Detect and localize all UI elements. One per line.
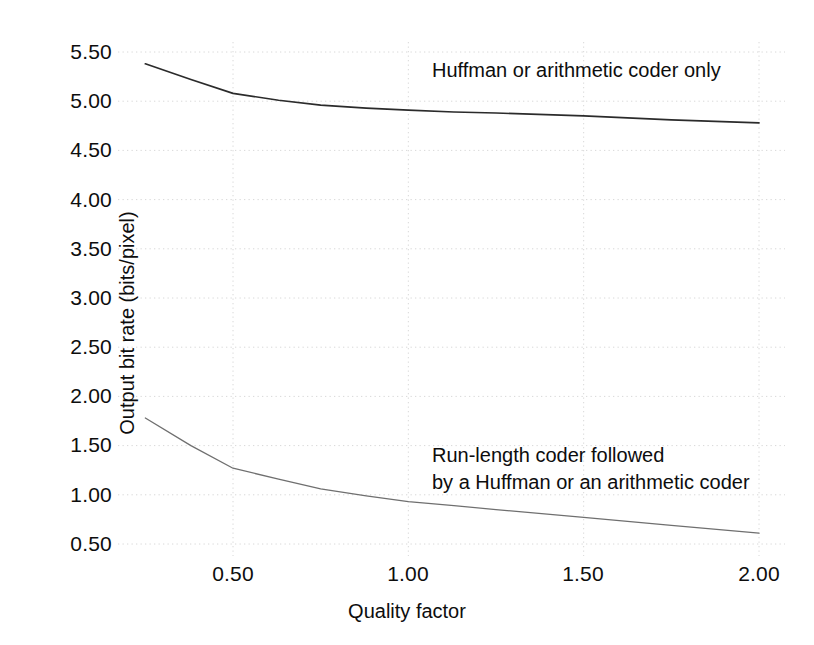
series-annotation-upper: Huffman or arithmetic coder only — [432, 57, 721, 84]
series-annotation-lower: Run-length coder followed by a Huffman o… — [432, 442, 750, 496]
y-axis-tick-label: 2.50 — [40, 335, 112, 359]
y-axis-tick-label: 5.00 — [40, 89, 112, 113]
y-axis-title: Output bit rate (bits/pixel) — [116, 211, 139, 434]
x-axis-tick-label: 2.00 — [714, 562, 804, 586]
x-axis-title: Quality factor — [0, 600, 814, 623]
y-axis-tick-label: 1.00 — [40, 483, 112, 507]
x-axis-tick-label: 0.50 — [188, 562, 278, 586]
y-axis-tick-label: 3.00 — [40, 286, 112, 310]
y-axis-tick-label: 3.50 — [40, 237, 112, 261]
y-axis-tick-label: 1.50 — [40, 433, 112, 457]
y-axis-tick-label: 2.00 — [40, 384, 112, 408]
chart-figure: 5.505.004.504.003.503.002.502.001.501.00… — [0, 0, 814, 645]
x-axis-tick-label: 1.00 — [363, 562, 453, 586]
x-axis-tick-label: 1.50 — [538, 562, 628, 586]
y-axis-tick-label: 5.50 — [40, 40, 112, 64]
y-axis-tick-label: 4.50 — [40, 138, 112, 162]
y-axis-tick-label: 4.00 — [40, 188, 112, 212]
y-axis-tick-label: 0.50 — [40, 532, 112, 556]
